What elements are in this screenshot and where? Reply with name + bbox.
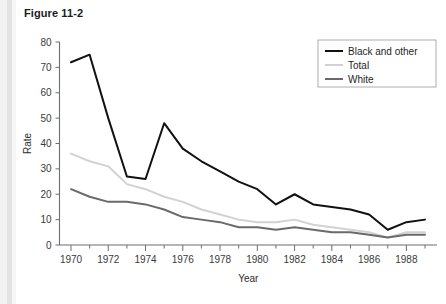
line-chart: 01020304050607080 1970197219741976197819… <box>0 0 446 304</box>
x-tick-label: 1978 <box>209 254 232 265</box>
x-tick-label: 1980 <box>246 254 269 265</box>
x-tick-label: 1974 <box>134 254 157 265</box>
y-tick-label: 30 <box>40 163 52 174</box>
y-tick-label: 80 <box>40 37 52 48</box>
series-line-white <box>71 189 425 237</box>
y-tick-label: 20 <box>40 189 52 200</box>
legend-label-white: White <box>348 74 374 85</box>
figure-container: Figure 11-2 01020304050607080 1970197219… <box>0 0 446 304</box>
y-tick-label: 60 <box>40 87 52 98</box>
legend-label-black-and-other: Black and other <box>348 46 418 57</box>
y-tick-label: 0 <box>46 240 52 251</box>
x-tick-label: 1972 <box>97 254 120 265</box>
x-tick-label: 1986 <box>358 254 381 265</box>
legend-label-total: Total <box>348 60 369 71</box>
x-tick-label: 1970 <box>60 254 83 265</box>
y-tick-label: 10 <box>40 214 52 225</box>
y-tick-label: 50 <box>40 113 52 124</box>
x-tick-label: 1988 <box>395 254 418 265</box>
x-tick-label: 1976 <box>172 254 195 265</box>
x-axis: 1970197219741976197819801982198419861988 <box>60 245 438 265</box>
y-tick-label: 70 <box>40 62 52 73</box>
x-tick-label: 1984 <box>321 254 344 265</box>
y-tick-label: 40 <box>40 138 52 149</box>
y-axis-title: Rate <box>22 133 33 155</box>
y-axis: 01020304050607080 <box>40 37 59 251</box>
x-axis-title: Year <box>238 273 259 284</box>
chart-legend: Black and otherTotalWhite <box>318 40 436 87</box>
x-tick-label: 1982 <box>283 254 306 265</box>
